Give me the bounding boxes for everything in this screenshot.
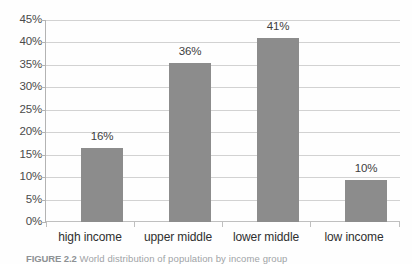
y-tick-label: 0% (0, 215, 42, 227)
bar-value-label: 36% (155, 45, 225, 57)
bar-lower-middle[interactable] (257, 38, 299, 222)
y-tick-label: 10% (0, 170, 42, 182)
bar-upper-middle[interactable] (169, 63, 211, 222)
figure-container: 45% 40% 35% 30% 25% 20% 15% 10% 5% 0% (0, 0, 412, 264)
x-category-label-upper-middle: upper middle (130, 230, 226, 244)
y-tick-label: 15% (0, 148, 42, 160)
x-tick-mark (310, 222, 311, 227)
bar-value-label: 10% (331, 162, 401, 174)
x-category-label-lower-middle: lower middle (218, 230, 314, 244)
y-tick-label: 35% (0, 58, 42, 70)
x-tick-mark (46, 222, 47, 227)
gridline (46, 65, 400, 66)
y-tick-label: 40% (0, 35, 42, 47)
figure-caption: FIGURE 2.2 World distribution of populat… (26, 253, 406, 264)
gridline (46, 87, 400, 88)
figure-caption-number: FIGURE 2.2 (26, 253, 77, 264)
figure-caption-text: World distribution of population by inco… (80, 253, 288, 264)
gridline (46, 110, 400, 111)
bar-value-label: 16% (67, 130, 137, 142)
y-tick-label: 25% (0, 103, 42, 115)
x-category-label-low-income: low income (306, 230, 402, 244)
plot-area: 16% 36% 41% 10% (46, 20, 400, 222)
bar-value-label: 41% (243, 20, 313, 32)
x-tick-mark (222, 222, 223, 227)
y-tick-label: 20% (0, 125, 42, 137)
bar-high-income[interactable] (81, 148, 123, 222)
y-tick-label: 5% (0, 193, 42, 205)
y-tick-label: 30% (0, 80, 42, 92)
bar-low-income[interactable] (345, 180, 387, 222)
y-tick-label: 45% (0, 13, 42, 25)
x-tick-mark (399, 222, 400, 227)
x-category-label-high-income: high income (42, 230, 138, 244)
gridline (46, 20, 400, 21)
gridline (46, 42, 400, 43)
x-tick-mark (134, 222, 135, 227)
